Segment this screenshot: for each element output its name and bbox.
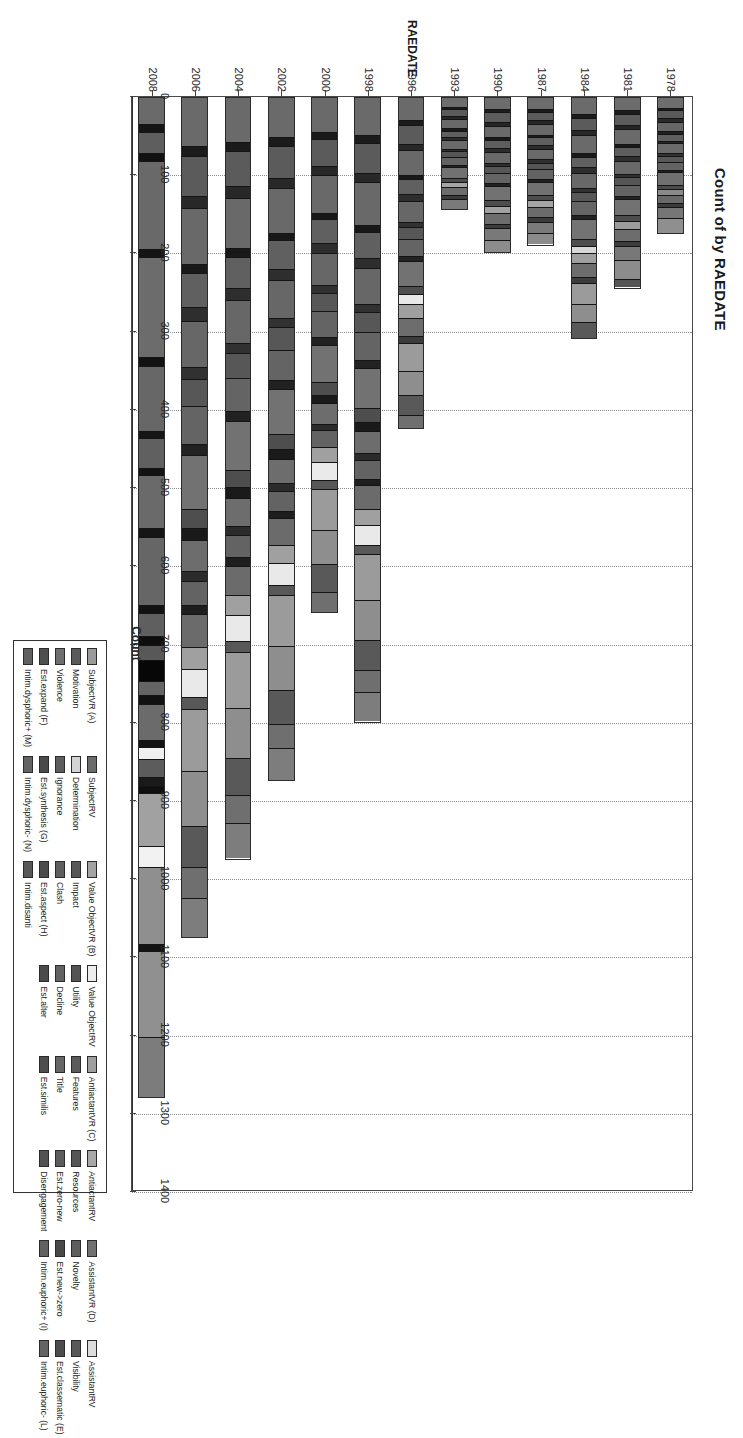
legend-item[interactable]: Resources: [69, 1150, 84, 1231]
legend-label: AntiactantVR (C): [88, 1077, 98, 1141]
legend-item[interactable]: Decline: [53, 965, 68, 1046]
legend-item[interactable]: Novelty: [69, 1240, 84, 1331]
legend-item[interactable]: Est.similis: [37, 1056, 52, 1141]
legend-item[interactable]: Value ObjectRV: [85, 965, 100, 1046]
legend-label: AssistantVR (D): [88, 1261, 98, 1322]
x-tick-label-1984: 1984: [579, 60, 591, 92]
x-tick-label-2004: 2004: [233, 60, 245, 92]
legend-item[interactable]: SubjectVR (A): [85, 648, 100, 747]
x-tick: [368, 90, 369, 96]
legend-label: Impact: [72, 882, 82, 908]
legend-item[interactable]: Value ObjectVR (B): [85, 861, 100, 956]
legend-label: AntiactantRV: [88, 1171, 98, 1221]
y-tick-label: 800: [159, 713, 171, 731]
x-tick-label-2008: 2008: [147, 60, 159, 92]
legend-swatch-icon: [72, 861, 82, 878]
y-axis: [131, 96, 693, 1191]
legend-item[interactable]: AssistantVR (D): [85, 1240, 100, 1331]
y-tick-label: 200: [159, 243, 171, 261]
legend-label: Disengagement: [40, 1171, 50, 1231]
legend-item[interactable]: Impact: [69, 861, 84, 956]
legend-column-2: Value ObjectVR (B)ImpactClashEst.aspect …: [20, 861, 100, 965]
x-tick-label-1981: 1981: [622, 60, 634, 92]
legend-item[interactable]: Motivation: [69, 648, 84, 747]
legend-swatch-icon: [40, 756, 50, 773]
legend-swatch-icon: [88, 1150, 98, 1167]
legend-label: Intim.dysphoric- (N): [24, 777, 34, 852]
legend-swatch-icon: [72, 1056, 82, 1073]
legend-item[interactable]: Clash: [53, 861, 68, 956]
legend-item[interactable]: Intim.dysphoric- (N): [21, 756, 36, 852]
legend-item[interactable]: Title: [53, 1056, 68, 1141]
x-tick: [325, 90, 326, 96]
y-tick-label: 1400: [159, 1179, 171, 1203]
legend-item[interactable]: Est.expand (F): [37, 648, 52, 747]
legend-label: Intim.dysphoric+ (M): [24, 669, 34, 747]
y-tick-label: 600: [159, 556, 171, 574]
legend-item[interactable]: Ignorance: [53, 756, 68, 852]
legend-label: Est.zero-new: [56, 1171, 66, 1221]
legend-item[interactable]: Utility: [69, 965, 84, 1046]
x-tick: [281, 90, 282, 96]
x-tick: [541, 90, 542, 96]
legend-column-6: AssistantVR (D)NoveltyEst.new->zeroIntim…: [20, 1240, 100, 1340]
legend-label: Value ObjectVR (B): [88, 882, 98, 956]
y-tick: [130, 1191, 136, 1192]
legend-item[interactable]: SubjectRV: [85, 756, 100, 852]
legend-label: SubjectRV: [88, 777, 98, 817]
legend-swatch-icon: [40, 648, 50, 665]
legend-item[interactable]: Est.alter: [37, 965, 52, 1046]
legend-label: Ignorance: [56, 777, 66, 815]
legend-item[interactable]: Est.classematic (E): [53, 1340, 68, 1435]
legend-item[interactable]: Intim.euphoric+ (I): [37, 1240, 52, 1331]
gridline: [132, 1192, 692, 1193]
legend-swatch-icon: [40, 1240, 50, 1257]
legend-item[interactable]: AssistantRV: [85, 1340, 100, 1435]
legend-column-3: Value ObjectRVUtilityDeclineEst.alter: [20, 965, 100, 1055]
legend-swatch-icon: [72, 756, 82, 773]
legend-swatch-icon: [88, 648, 98, 665]
legend-label: SubjectVR (A): [88, 669, 98, 723]
legend-item[interactable]: AntiactantVR (C): [85, 1056, 100, 1141]
legend-label: Motivation: [72, 669, 82, 708]
legend-item[interactable]: Violence: [53, 648, 68, 747]
legend-swatch-icon: [40, 861, 50, 878]
legend-swatch-icon: [24, 648, 34, 665]
x-tick-label-2006: 2006: [190, 60, 202, 92]
legend-label: Title: [56, 1077, 66, 1093]
legend-item[interactable]: Est.new->zero: [53, 1240, 68, 1331]
legend-item[interactable]: Intim.dysphoric+ (M): [21, 648, 36, 747]
legend-label: Est.new->zero: [56, 1261, 66, 1316]
y-tick-label: 400: [159, 400, 171, 418]
legend-item[interactable]: Est.synthesis (G): [37, 756, 52, 852]
legend-swatch-icon: [56, 1240, 66, 1257]
x-tick-label-1978: 1978: [665, 60, 677, 92]
legend-swatch-icon: [88, 1240, 98, 1257]
legend-label: Violence: [56, 669, 66, 702]
y-tick-label: 1300: [159, 1101, 171, 1125]
legend-item[interactable]: Est.zero-new: [53, 1150, 68, 1231]
legend-label: Est.expand (F): [40, 669, 50, 725]
legend-label: Utility: [72, 986, 82, 1007]
legend-swatch-icon: [56, 861, 66, 878]
legend-item[interactable]: Visibility: [69, 1340, 84, 1435]
legend-swatch-icon: [72, 1150, 82, 1167]
legend-item[interactable]: AntiactantRV: [85, 1150, 100, 1231]
y-tick-label: 0: [159, 93, 171, 99]
legend-swatch-icon: [72, 648, 82, 665]
legend-label: Resources: [72, 1171, 82, 1212]
legend-item[interactable]: Intim.disanti: [21, 861, 36, 956]
legend-swatch-icon: [56, 648, 66, 665]
legend-swatch-icon: [72, 1240, 82, 1257]
x-tick-label-2000: 2000: [320, 60, 332, 92]
legend-item[interactable]: Est.aspect (H): [37, 861, 52, 956]
legend-item[interactable]: Features: [69, 1056, 84, 1141]
y-tick-label: 1000: [159, 866, 171, 890]
legend-item[interactable]: Intim.euphoric- (L): [37, 1340, 52, 1435]
legend-item[interactable]: Determination: [69, 756, 84, 852]
legend-swatch-icon: [24, 756, 34, 773]
x-tick: [195, 90, 196, 96]
legend-swatch-icon: [40, 965, 50, 982]
legend-item[interactable]: Disengagement: [37, 1150, 52, 1231]
legend-swatch-icon: [88, 756, 98, 773]
